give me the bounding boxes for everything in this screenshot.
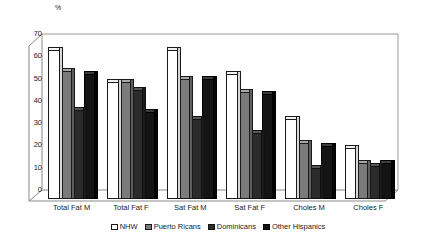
y-axis-tick-label: 40 — [34, 97, 42, 105]
bar-nhw[interactable] — [285, 119, 297, 199]
bar-side-face — [178, 47, 181, 199]
bar-slot — [107, 34, 119, 199]
bar-face — [107, 82, 119, 199]
bar-side-face — [333, 143, 336, 199]
x-axis-tick-label: Choles M — [279, 203, 338, 212]
bar-slot — [167, 34, 179, 199]
bar-face — [167, 50, 179, 199]
y-axis-tick-label: 50 — [34, 75, 42, 83]
bar-side-face — [392, 160, 395, 199]
bar-side-face — [250, 89, 253, 199]
bar-side-face — [95, 71, 98, 199]
bar-top-cap — [262, 91, 274, 94]
bar-cluster — [107, 34, 154, 199]
bar-top-cap — [321, 143, 333, 146]
bar-group — [279, 34, 338, 199]
x-axis-labels: Total Fat MTotal Fat FSat Fat MSat Fat F… — [42, 203, 398, 212]
bar-slot — [48, 34, 60, 199]
legend-item[interactable]: Dominicans — [208, 222, 256, 231]
bar-group — [161, 34, 220, 199]
legend-label: Other Hispanics — [272, 222, 325, 231]
plot-area — [42, 34, 398, 199]
bar-face — [345, 148, 357, 199]
bar-cluster — [48, 34, 95, 199]
y-axis-tick-label: 70 — [34, 30, 42, 38]
y-axis: 706050403020100 — [18, 34, 42, 199]
bar-slot — [226, 34, 238, 199]
bar-chart: % 706050403020100 Total Fat MTotal Fat F… — [0, 0, 436, 241]
bar-cluster — [167, 34, 214, 199]
bar-side-face — [202, 116, 205, 199]
bar-side-face — [119, 79, 122, 199]
x-axis-tick-label: Sat Fat F — [220, 203, 279, 212]
bar-side-face — [380, 163, 383, 199]
bar-nhw[interactable] — [167, 50, 179, 199]
chart-legend: NHWPuerto RicansDominicansOther Hispanic… — [0, 222, 436, 231]
bar-cluster — [345, 34, 392, 199]
bar-cluster — [226, 34, 273, 199]
bar-top-cap — [107, 79, 119, 82]
bar-nhw[interactable] — [107, 82, 119, 199]
bar-side-face — [143, 87, 146, 199]
y-axis-tick-label: 20 — [34, 142, 42, 150]
bar-side-face — [190, 76, 193, 199]
bar-side-face — [84, 107, 87, 199]
bar-groups — [42, 34, 398, 199]
bar-face — [226, 74, 238, 199]
legend-swatch-icon — [145, 224, 152, 230]
bar-nhw[interactable] — [226, 74, 238, 199]
legend-label: Puerto Ricans — [154, 222, 201, 231]
bar-group — [339, 34, 398, 199]
legend-label: NHW — [120, 222, 138, 231]
bar-side-face — [60, 47, 63, 199]
bar-group — [42, 34, 101, 199]
x-axis-tick-label: Total Fat F — [101, 203, 160, 212]
legend-label: Dominicans — [217, 222, 256, 231]
bar-side-face — [368, 160, 371, 199]
bar-side-face — [131, 79, 134, 199]
x-axis-tick-label: Total Fat M — [42, 203, 101, 212]
bar-side-face — [356, 145, 359, 199]
bar-side-face — [321, 165, 324, 199]
bar-face — [48, 50, 60, 199]
bar-nhw[interactable] — [345, 148, 357, 199]
legend-swatch-icon — [208, 224, 215, 230]
legend-item[interactable]: NHW — [111, 222, 138, 231]
bar-group — [220, 34, 279, 199]
y-axis-unit-label: % — [55, 4, 61, 11]
legend-item[interactable]: Other Hispanics — [263, 222, 325, 231]
bar-cluster — [285, 34, 332, 199]
bar-slot — [345, 34, 357, 199]
bar-face — [285, 119, 297, 199]
legend-swatch-icon — [111, 224, 118, 230]
y-axis-tick-label: 10 — [34, 164, 42, 172]
bar-top-cap — [84, 71, 96, 74]
bar-side-face — [309, 140, 312, 199]
x-axis-tick-label: Sat Fat M — [161, 203, 220, 212]
bar-side-face — [72, 68, 75, 199]
bar-top-cap — [226, 71, 238, 74]
legend-swatch-icon — [263, 224, 270, 230]
bar-side-face — [238, 71, 241, 199]
bar-side-face — [273, 91, 276, 199]
bar-group — [101, 34, 160, 199]
bar-top-cap — [285, 116, 297, 119]
bar-top-cap — [48, 47, 60, 50]
bar-side-face — [214, 76, 217, 199]
bar-top-cap — [167, 47, 179, 50]
bar-side-face — [297, 116, 300, 199]
bar-slot — [285, 34, 297, 199]
bar-side-face — [262, 130, 265, 199]
y-axis-tick-label: 30 — [34, 119, 42, 127]
legend-item[interactable]: Puerto Ricans — [145, 222, 201, 231]
bar-side-face — [155, 109, 158, 199]
bar-nhw[interactable] — [48, 50, 60, 199]
x-axis-tick-label: Choles F — [339, 203, 398, 212]
bar-top-cap — [202, 76, 214, 79]
y-axis-tick-label: 60 — [34, 53, 42, 61]
bar-top-cap — [345, 145, 357, 148]
